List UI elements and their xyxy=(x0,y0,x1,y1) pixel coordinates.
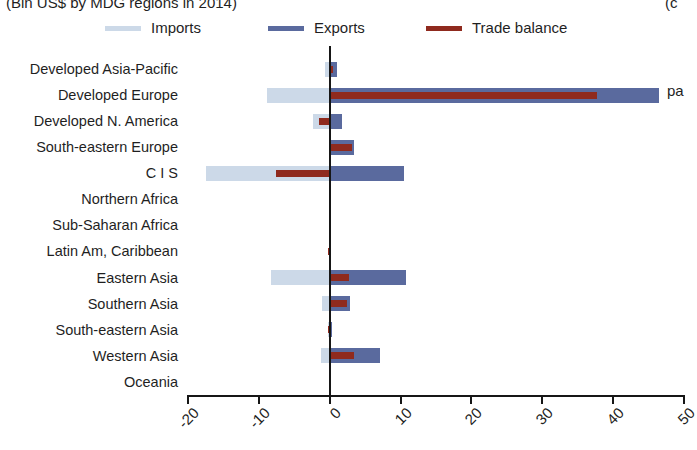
x-axis-tick xyxy=(258,395,260,404)
chart-title-text: (Bln US$ by MDG regions in 2014) xyxy=(6,0,426,12)
y-axis-label: C I S xyxy=(0,160,182,186)
legend-label-imports: Imports xyxy=(151,19,201,37)
bar-group xyxy=(188,56,684,82)
x-axis-tick xyxy=(683,395,685,404)
chart-title: (Bln US$ by MDG regions in 2014) xyxy=(6,0,426,14)
y-axis-label: Developed Asia-Pacific xyxy=(0,56,182,82)
bar-balance xyxy=(276,170,330,177)
y-axis-label: South-eastern Asia xyxy=(0,317,182,343)
bar-group xyxy=(188,239,684,265)
bar-exports xyxy=(330,166,404,181)
bar-group xyxy=(188,108,684,134)
chart-title-right-fragment: (c xyxy=(665,0,695,14)
x-axis-tick-label: 40 xyxy=(583,404,628,449)
legend-item-imports[interactable]: Imports xyxy=(105,17,201,39)
y-axis-label: Eastern Asia xyxy=(0,265,182,291)
x-axis-tick-label: 30 xyxy=(512,404,557,449)
x-axis-tick xyxy=(329,395,331,404)
bar-imports xyxy=(271,270,330,285)
y-axis-label: South-eastern Europe xyxy=(0,134,182,160)
chart-legend: Imports Exports Trade balance xyxy=(0,17,640,39)
x-axis-tick-label: 20 xyxy=(441,404,486,449)
legend-item-trade-balance[interactable]: Trade balance xyxy=(426,17,567,39)
legend-swatch-exports-icon xyxy=(268,26,304,31)
bar-imports xyxy=(267,88,329,103)
x-axis-line xyxy=(188,395,684,397)
legend-label-exports: Exports xyxy=(314,19,365,37)
y-axis-label: Western Asia xyxy=(0,343,182,369)
bar-group xyxy=(188,369,684,395)
bar-exports xyxy=(330,114,343,129)
bar-group xyxy=(188,265,684,291)
right-edge-annotation: pa xyxy=(667,82,695,99)
y-axis-label: Developed Europe xyxy=(0,82,182,108)
bar-balance xyxy=(330,300,347,307)
chart-root: (Bln US$ by MDG regions in 2014) (c Impo… xyxy=(0,0,697,450)
bar-balance xyxy=(330,92,597,99)
y-axis-label: Sub-Saharan Africa xyxy=(0,212,182,238)
zero-axis-line xyxy=(329,46,331,395)
x-axis-tick xyxy=(541,395,543,404)
y-axis-label: Southern Asia xyxy=(0,291,182,317)
bar-group xyxy=(188,317,684,343)
bar-group xyxy=(188,82,684,108)
x-axis-tick-label: -20 xyxy=(157,404,202,449)
x-axis-tick-label: 10 xyxy=(370,404,415,449)
legend-label-trade-balance: Trade balance xyxy=(472,19,567,37)
bar-group xyxy=(188,291,684,317)
x-axis-tick xyxy=(400,395,402,404)
bar-balance xyxy=(330,144,352,151)
y-axis-label: Developed N. America xyxy=(0,108,182,134)
x-axis-tick-label: 50 xyxy=(653,404,697,449)
x-axis-tick xyxy=(612,395,614,404)
legend-item-exports[interactable]: Exports xyxy=(268,17,365,39)
bar-balance xyxy=(330,352,354,359)
bar-group xyxy=(188,212,684,238)
plot-area xyxy=(188,56,684,395)
bar-balance xyxy=(330,274,349,281)
legend-swatch-trade-balance-icon xyxy=(426,26,462,31)
y-axis-label: Latin Am, Caribbean xyxy=(0,238,182,264)
legend-swatch-imports-icon xyxy=(105,26,141,31)
y-axis-label: Northern Africa xyxy=(0,186,182,212)
x-axis-tick-label: -10 xyxy=(228,404,273,449)
x-axis-tick-label: 0 xyxy=(299,404,344,449)
x-axis-tick xyxy=(187,395,189,404)
bar-group xyxy=(188,160,684,186)
y-axis-category-labels: Developed Asia-PacificDeveloped EuropeDe… xyxy=(0,56,182,395)
bar-group xyxy=(188,186,684,212)
bar-group xyxy=(188,343,684,369)
y-axis-label: Oceania xyxy=(0,369,182,395)
x-axis-tick xyxy=(470,395,472,404)
bar-group xyxy=(188,134,684,160)
